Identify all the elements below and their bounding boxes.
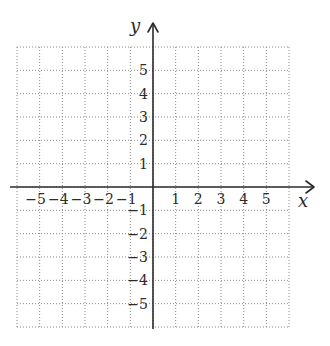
x-tick-label: −2 — [93, 191, 114, 207]
x-tick-label: −5 — [25, 191, 46, 207]
x-tick-label: 3 — [217, 191, 226, 207]
coordinate-plane: −5−4−3−2−112345 54321−1−2−3−4−5 x y — [0, 0, 330, 346]
axes — [10, 23, 314, 329]
x-tick-label: 4 — [239, 191, 248, 207]
x-tick-label: 5 — [262, 191, 271, 207]
x-axis-label: x — [298, 190, 308, 211]
y-tick-label: 2 — [139, 132, 148, 148]
y-tick-label: 1 — [139, 156, 148, 172]
y-tick-label: −2 — [127, 226, 148, 242]
y-tick-label: −1 — [127, 202, 148, 218]
x-tick-label: −4 — [48, 191, 69, 207]
x-tick-label: 1 — [171, 191, 180, 207]
x-tick-label: 2 — [194, 191, 203, 207]
y-tick-label: −4 — [127, 272, 148, 288]
y-axis-label: y — [129, 15, 141, 36]
y-tick-label: 5 — [139, 62, 148, 78]
y-tick-label: 3 — [139, 109, 148, 125]
x-tick-label: −3 — [71, 191, 92, 207]
y-tick-label: 4 — [139, 86, 148, 102]
y-tick-label: −3 — [127, 249, 148, 265]
x-tick-labels: −5−4−3−2−112345 — [25, 191, 270, 207]
y-tick-label: −5 — [127, 296, 148, 312]
